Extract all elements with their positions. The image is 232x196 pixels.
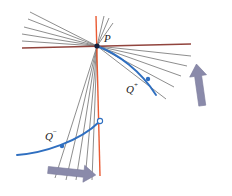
- point-Q-plus: [146, 77, 150, 81]
- label-P: P: [103, 32, 111, 44]
- label-Q-minus-superscript: −: [53, 128, 57, 136]
- point-P: [94, 43, 99, 48]
- label-Q-plus-superscript: +: [134, 81, 138, 89]
- geometry-diagram: P Q + Q −: [0, 0, 232, 196]
- label-Q-minus: Q: [45, 130, 53, 142]
- point-limit-hollow: [97, 118, 102, 123]
- point-Q-minus: [60, 144, 64, 148]
- label-Q-plus: Q: [126, 83, 134, 95]
